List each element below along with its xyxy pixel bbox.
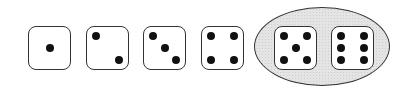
pip-dot [230,56,238,64]
pip-dot [149,32,157,40]
pip-dot [337,44,345,52]
die-face-1 [28,26,71,70]
pip-dot [207,32,215,40]
pip-dot [292,44,300,52]
pip-dot [303,32,311,40]
pip-dot [280,32,288,40]
die-face-6 [331,26,374,70]
pip-dot [230,32,238,40]
pip-dot [337,32,345,40]
pip-dot [46,44,54,52]
die-face-4 [201,26,244,70]
pip-dot [92,32,100,40]
pip-dot [360,32,368,40]
pip-dot [115,56,123,64]
die-face-5 [274,26,317,70]
pip-dot [280,56,288,64]
die-face-3 [143,26,186,70]
pip-dot [360,56,368,64]
pip-dot [161,44,169,52]
pip-dot [337,56,345,64]
pip-dot [172,56,180,64]
die-face-2 [86,26,129,70]
pip-dot [207,56,215,64]
pip-dot [360,44,368,52]
pip-dot [303,56,311,64]
